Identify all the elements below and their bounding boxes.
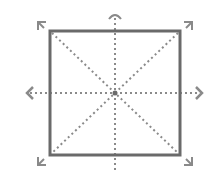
resize-handle-ne-icon[interactable] [184,22,192,30]
resize-handle-se-icon[interactable] [184,157,192,165]
resize-handle-nw-icon[interactable] [38,22,46,30]
resize-handle-sw-icon[interactable] [38,157,46,165]
transform-box-diagram [0,0,217,181]
center-point[interactable] [113,91,118,96]
